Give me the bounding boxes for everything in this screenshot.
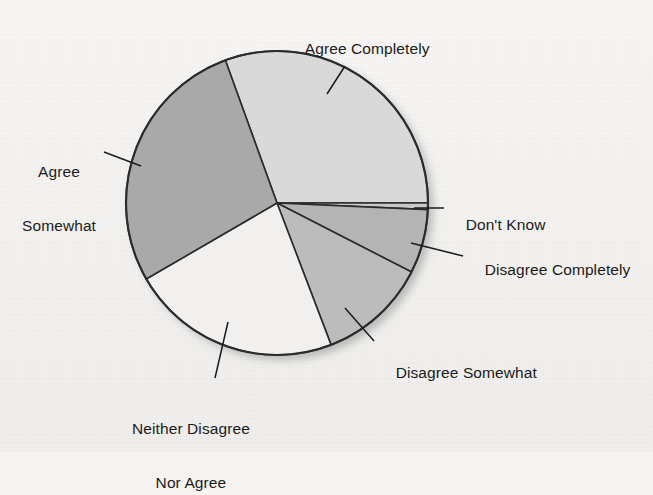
pie-slice-group (126, 51, 428, 355)
slice-label-text: Don't Know (466, 216, 546, 233)
slice-label-text-line1: Agree (22, 163, 96, 181)
slice-label-text-line2: Nor Agree (132, 474, 250, 492)
slice-label-agree-completely: Agree Completely (288, 22, 430, 77)
slice-label-agree-somewhat: Agree Somewhat (22, 126, 96, 272)
slice-label-text: Disagree Somewhat (396, 364, 537, 381)
slice-label-disagree-somewhat: Disagree Somewhat (378, 346, 537, 401)
slice-label-text-line1: Neither Disagree (132, 420, 250, 438)
slice-label-disagree-completely: Disagree Completely (467, 243, 630, 298)
slice-label-text-line2: Somewhat (22, 217, 96, 235)
slice-label-text: Disagree Completely (485, 261, 631, 278)
slice-label-neither-disagree-nor-agree: Neither Disagree Nor Agree (132, 383, 250, 495)
slice-label-text: Agree Completely (305, 40, 430, 57)
